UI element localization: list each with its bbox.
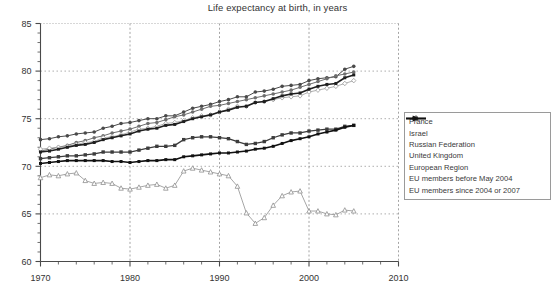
data-point-european-region <box>245 143 248 146</box>
data-point-eu-members-since-2004-or-2007 <box>84 159 87 162</box>
data-point-eu-members-since-2004-or-2007 <box>218 151 221 154</box>
data-point-united-kingdom <box>352 78 356 83</box>
y-axis-tick-label: 70 <box>21 162 31 172</box>
data-point-european-region <box>128 150 131 153</box>
data-point-eu-members-before-may-2004 <box>111 136 114 139</box>
data-point-israel <box>316 80 320 84</box>
data-point-france <box>218 100 222 104</box>
data-point-eu-members-since-2004-or-2007 <box>111 160 114 163</box>
data-point-european-region <box>227 137 230 140</box>
data-point-eu-members-before-may-2004 <box>334 82 337 85</box>
data-point-france <box>289 84 293 88</box>
data-point-eu-members-since-2004-or-2007 <box>290 139 293 142</box>
data-point-eu-members-since-2004-or-2007 <box>173 158 176 161</box>
data-point-eu-members-since-2004-or-2007 <box>325 131 328 134</box>
data-point-israel <box>262 94 266 98</box>
legend-label: European Region <box>407 162 468 173</box>
series-line-france <box>41 66 354 139</box>
legend-item[interactable]: EU members before May 2004 <box>407 173 547 184</box>
data-point-european-region <box>119 150 122 153</box>
data-point-france <box>83 131 87 135</box>
data-point-eu-members-before-may-2004 <box>209 113 212 116</box>
data-point-eu-members-since-2004-or-2007 <box>75 159 78 162</box>
series-line-russian-federation <box>41 168 354 223</box>
data-point-france <box>254 90 258 94</box>
data-point-united-kingdom <box>316 88 320 93</box>
legend-item[interactable]: EU members since 2004 or 2007 <box>407 184 547 195</box>
data-point-eu-members-before-may-2004 <box>57 148 60 151</box>
data-point-russian-federation <box>244 211 249 215</box>
data-point-france <box>92 130 96 134</box>
series-line-eu-members-before-may-2004 <box>41 75 354 152</box>
data-point-eu-members-since-2004-or-2007 <box>272 145 275 148</box>
data-point-eu-members-since-2004-or-2007 <box>48 161 51 164</box>
data-point-eu-members-before-may-2004 <box>343 76 346 79</box>
series-line-israel <box>41 72 354 151</box>
data-point-european-region <box>307 129 310 132</box>
data-point-israel <box>236 100 240 104</box>
chart-container: Life expectancy at birth, in years 60657… <box>0 0 555 297</box>
data-point-eu-members-before-may-2004 <box>48 150 51 153</box>
data-point-eu-members-before-may-2004 <box>281 94 284 97</box>
y-axis-tick-label: 75 <box>21 114 31 124</box>
data-point-israel <box>343 72 347 76</box>
data-point-france <box>307 79 311 83</box>
data-point-european-region <box>146 147 149 150</box>
data-point-european-region <box>110 150 113 153</box>
data-point-european-region <box>93 152 96 155</box>
x-axis-tick-label: 2010 <box>388 273 408 283</box>
data-point-eu-members-since-2004-or-2007 <box>281 142 284 145</box>
data-point-eu-members-before-may-2004 <box>173 123 176 126</box>
legend-item[interactable]: United Kingdom <box>407 150 547 161</box>
data-point-eu-members-since-2004-or-2007 <box>102 159 105 162</box>
data-point-eu-members-since-2004-or-2007 <box>146 159 149 162</box>
data-point-france <box>66 134 70 138</box>
data-point-european-region <box>254 142 257 145</box>
data-point-eu-members-since-2004-or-2007 <box>343 126 346 129</box>
data-point-israel <box>280 90 284 94</box>
data-point-eu-members-before-may-2004 <box>263 100 266 103</box>
data-point-european-region <box>325 127 328 130</box>
data-point-european-region <box>263 140 266 143</box>
data-point-european-region <box>155 145 158 148</box>
chart-legend: France Israel Russian Federation United … <box>404 112 551 200</box>
data-point-israel <box>182 113 186 117</box>
data-point-france <box>57 135 61 139</box>
data-point-european-region <box>280 133 283 136</box>
data-point-eu-members-since-2004-or-2007 <box>182 155 185 158</box>
x-axis-tick-label: 2000 <box>299 273 319 283</box>
data-point-eu-members-since-2004-or-2007 <box>263 147 266 150</box>
data-point-france <box>236 95 240 99</box>
y-axis-tick-label: 65 <box>21 209 31 219</box>
data-point-eu-members-since-2004-or-2007 <box>129 161 132 164</box>
legend-item[interactable]: Russian Federation <box>407 139 547 150</box>
data-point-france <box>227 98 231 102</box>
data-point-france <box>110 125 114 129</box>
data-point-european-region <box>48 156 51 159</box>
data-point-european-region <box>182 138 185 141</box>
series-russian-federation <box>38 166 356 226</box>
data-point-european-region <box>57 155 60 158</box>
legend-label: United Kingdom <box>407 150 463 161</box>
data-point-eu-members-before-may-2004 <box>191 117 194 120</box>
x-axis-tick-label: 1980 <box>120 273 140 283</box>
data-point-france <box>137 119 141 123</box>
data-point-eu-members-since-2004-or-2007 <box>245 150 248 153</box>
data-point-france <box>352 65 356 69</box>
data-point-israel <box>271 92 275 96</box>
legend-item[interactable]: European Region <box>407 162 547 173</box>
data-point-eu-members-before-may-2004 <box>120 134 123 137</box>
data-point-eu-members-since-2004-or-2007 <box>352 124 355 127</box>
data-point-eu-members-before-may-2004 <box>146 128 149 131</box>
data-point-russian-federation <box>280 193 285 197</box>
data-point-eu-members-before-may-2004 <box>236 106 239 109</box>
data-point-eu-members-before-may-2004 <box>164 124 167 127</box>
data-point-eu-members-before-may-2004 <box>245 105 248 108</box>
y-axis-tick-label: 60 <box>21 257 31 267</box>
data-point-eu-members-before-may-2004 <box>254 101 257 104</box>
data-point-france <box>75 132 79 136</box>
legend-item[interactable]: France <box>407 116 547 127</box>
data-point-russian-federation <box>190 166 195 170</box>
legend-item[interactable]: Israel <box>407 127 547 138</box>
data-point-france <box>271 87 275 91</box>
